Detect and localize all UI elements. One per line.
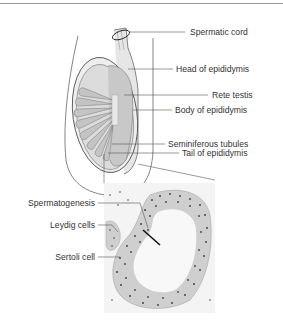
label-rete-testis: Rete testis <box>212 90 253 100</box>
label-sertoli-cell: Sertoli cell <box>0 252 95 262</box>
micrograph <box>104 183 215 313</box>
testis-anatomy-illustration <box>0 0 283 330</box>
label-head-of-epididymis: Head of epididymis <box>176 64 249 74</box>
label-tail-of-epididymis: Tail of epididymis <box>182 148 247 158</box>
label-body-of-epididymis: Body of epididymis <box>175 105 247 115</box>
label-spermatogenesis: Spermatogenesis <box>0 198 95 208</box>
label-spermatic-cord: Spermatic cord <box>190 27 248 37</box>
label-leydig-cells: Leydig cells <box>0 220 95 230</box>
